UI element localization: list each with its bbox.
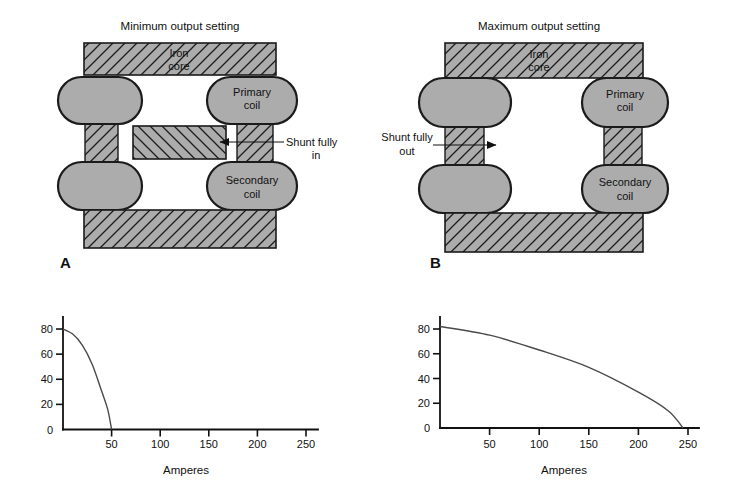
x-axis-title: Amperes bbox=[541, 464, 587, 476]
panel-b-title: Maximum output setting bbox=[478, 20, 600, 32]
y-tick-label: 0 bbox=[47, 424, 53, 436]
iron-core-label-line1: Iron bbox=[530, 48, 549, 60]
panel-b-letter: B bbox=[430, 254, 441, 271]
panel-b-diagram: Maximum output setting Iron core Primary… bbox=[367, 0, 734, 280]
panel-a-letter: A bbox=[60, 254, 71, 271]
plot-area: 02040608050100150200250 bbox=[41, 317, 318, 450]
y-tick-label: 20 bbox=[418, 397, 430, 409]
y-tick-label: 60 bbox=[41, 348, 53, 360]
iron-core-bottom-bar bbox=[445, 213, 643, 252]
panel-a-title: Minimum output setting bbox=[121, 20, 240, 32]
x-tick-label: 250 bbox=[297, 438, 315, 450]
chart-a: 02040608050100150200250 Amperes bbox=[0, 280, 367, 504]
y-tick-label: 80 bbox=[418, 323, 430, 335]
y-tick-label: 0 bbox=[424, 422, 430, 434]
x-tick-label: 200 bbox=[248, 438, 266, 450]
x-axis-title: Amperes bbox=[163, 464, 209, 476]
x-tick-label: 100 bbox=[530, 438, 548, 450]
y-tick-label: 40 bbox=[418, 373, 430, 385]
chart-b: 02040608050100150200250 Amperes bbox=[367, 280, 734, 504]
panel-a-diagram: Minimum output setting Iron core Primary… bbox=[0, 0, 367, 280]
y-tick-label: 60 bbox=[418, 348, 430, 360]
shunt-label-line1: Shunt fully bbox=[381, 131, 433, 143]
shunt-label-line2: in bbox=[312, 149, 321, 161]
x-tick-label: 150 bbox=[580, 438, 598, 450]
figure-page: Minimum output setting Iron core Primary… bbox=[0, 0, 734, 504]
y-tick-label: 20 bbox=[41, 398, 53, 410]
y-tick-label: 80 bbox=[41, 323, 53, 335]
x-tick-label: 100 bbox=[151, 438, 169, 450]
secondary-coil-label-line2: coil bbox=[244, 188, 261, 200]
core-right-leg bbox=[604, 127, 642, 165]
iron-core-label-line2: core bbox=[528, 61, 549, 73]
data-curve-output-vs-amperes-shunt-fully-out bbox=[440, 327, 683, 428]
iron-core-bottom-bar bbox=[84, 210, 276, 248]
secondary-coil-label-line2: coil bbox=[617, 190, 634, 202]
left-upper-coil bbox=[419, 78, 511, 127]
y-tick-label: 40 bbox=[41, 373, 53, 385]
secondary-coil-shape bbox=[207, 162, 297, 210]
plot-area: 02040608050100150200250 bbox=[418, 317, 699, 450]
iron-core-label-line2: core bbox=[168, 60, 189, 72]
x-tick-label: 200 bbox=[629, 438, 647, 450]
x-tick-label: 250 bbox=[679, 438, 697, 450]
x-tick-label: 50 bbox=[483, 438, 495, 450]
shunt-label-line2: out bbox=[399, 145, 414, 157]
primary-coil-label-line1: Primary bbox=[606, 88, 644, 100]
core-left-leg bbox=[85, 124, 118, 163]
primary-coil-label-line1: Primary bbox=[233, 86, 271, 98]
left-lower-coil bbox=[58, 162, 142, 210]
core-left-leg bbox=[445, 127, 484, 165]
data-curve-output-vs-amperes-shunt-fully-in bbox=[63, 329, 112, 429]
secondary-coil-label-line1: Secondary bbox=[599, 176, 652, 188]
x-tick-label: 50 bbox=[105, 438, 117, 450]
primary-coil-label-line2: coil bbox=[617, 101, 634, 113]
secondary-coil-label-line1: Secondary bbox=[226, 174, 279, 186]
primary-coil-label-line2: coil bbox=[244, 99, 261, 111]
left-lower-coil bbox=[419, 165, 511, 213]
x-tick-label: 150 bbox=[200, 438, 218, 450]
iron-core-label-line1: Iron bbox=[170, 47, 189, 59]
shunt-label-line1: Shunt fully bbox=[286, 136, 338, 148]
left-upper-coil bbox=[58, 77, 142, 124]
magnetic-shunt bbox=[133, 126, 226, 159]
core-right-leg bbox=[237, 124, 273, 163]
secondary-coil-shape bbox=[582, 165, 668, 213]
